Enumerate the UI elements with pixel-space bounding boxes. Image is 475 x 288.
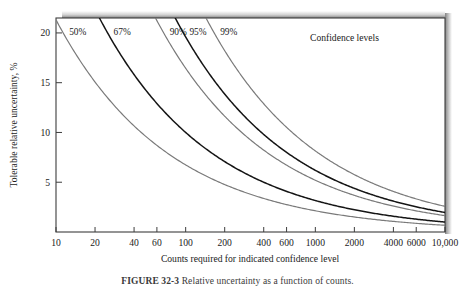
curve-label-90pct: 90%: [170, 27, 187, 37]
y-tick-label: 5: [45, 177, 50, 188]
y-tick-label: 15: [40, 77, 50, 88]
x-tick-label: 100: [178, 237, 193, 248]
curve-label-50pct: 50%: [69, 27, 86, 37]
x-tick-label: 40: [129, 237, 139, 248]
x-tick-label: 20: [90, 237, 100, 248]
legend-title: Confidence levels: [310, 32, 379, 43]
y-axis-title: Tolerable relative uncertainty, %: [8, 63, 19, 188]
x-tick-label: 1000: [306, 237, 325, 248]
y-tick-label: 20: [40, 27, 50, 38]
x-tick-label: 200: [218, 237, 233, 248]
y-tick-label: 10: [40, 127, 50, 138]
x-tick-label: 400: [257, 237, 272, 248]
x-tick-label: 4000: [384, 237, 403, 248]
x-tick-label: 6000: [407, 237, 426, 248]
scan-shadow-right: [445, 13, 452, 234]
x-tick-label: 60: [152, 237, 162, 248]
x-tick-label: 10,000: [432, 237, 459, 248]
x-axis-tick-labels: 10204060100200400600100020004000600010,0…: [51, 237, 458, 248]
figure-caption: FIGURE 32-3 Relative uncertainty as a fu…: [0, 276, 475, 287]
scan-shadow-top: [62, 11, 445, 18]
x-tick-label: 600: [279, 237, 294, 248]
curve-label-99pct: 99%: [220, 27, 237, 37]
x-tick-label: 10: [51, 237, 61, 248]
x-tick-label: 2000: [345, 237, 364, 248]
figure-container: 10204060100200400600100020004000600010,0…: [0, 0, 475, 288]
x-axis-title: Counts required for indicated confidence…: [161, 253, 340, 264]
curve-label-95pct: 95%: [189, 27, 206, 37]
chart-plot: 10204060100200400600100020004000600010,0…: [0, 0, 475, 288]
figure-caption-text: Relative uncertainty as a function of co…: [182, 276, 354, 286]
y-axis-tick-labels: 5101520: [40, 27, 50, 187]
figure-caption-number: FIGURE 32-3: [121, 276, 179, 286]
curve-label-67pct: 67%: [114, 27, 131, 37]
